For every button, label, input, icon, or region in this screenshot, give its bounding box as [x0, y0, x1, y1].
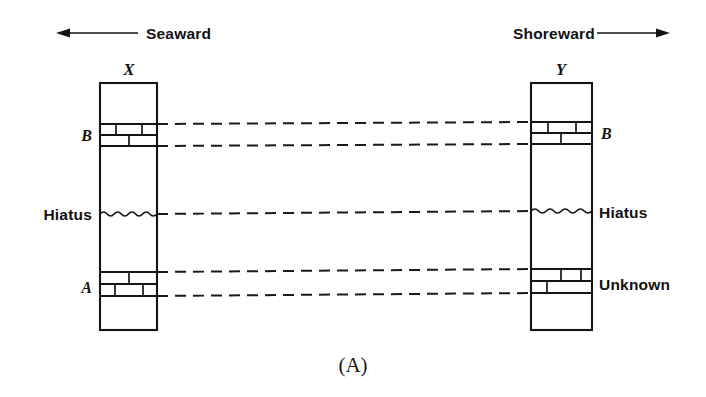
column-y: Y B H — [531, 60, 670, 330]
figure-canvas: Seaward Shoreward X — [0, 0, 706, 397]
column-y-label-hiatus: Hiatus — [599, 204, 648, 221]
shoreward-direction-indicator: Shoreward — [513, 25, 670, 42]
column-x-label-a: A — [80, 279, 92, 296]
correlation-line-hiatus — [157, 211, 533, 214]
column-y-label-unknown: Unknown — [599, 276, 670, 293]
column-x-outline — [100, 83, 157, 330]
seaward-direction-indicator: Seaward — [56, 25, 211, 42]
correlation-line-base-of-b — [157, 144, 533, 146]
column-y-label-b: B — [600, 125, 612, 142]
correlation-line-top-of-b — [157, 122, 533, 124]
column-y-name: Y — [556, 60, 568, 79]
column-x-name: X — [122, 60, 135, 79]
correlation-lines-group — [157, 122, 533, 296]
correlation-line-top-of-a — [157, 269, 533, 272]
figure-caption: (A) — [338, 353, 367, 377]
seaward-arrow-head-icon — [56, 29, 70, 38]
column-x: X — [43, 60, 157, 330]
stratigraphic-correlation-figure: Seaward Shoreward X — [0, 0, 706, 397]
shoreward-label: Shoreward — [513, 25, 595, 42]
shoreward-arrow-head-icon — [656, 29, 670, 38]
column-x-label-b: B — [80, 127, 92, 144]
seaward-label: Seaward — [146, 25, 211, 42]
column-x-label-hiatus: Hiatus — [43, 206, 92, 223]
correlation-line-base-of-a — [157, 293, 533, 296]
